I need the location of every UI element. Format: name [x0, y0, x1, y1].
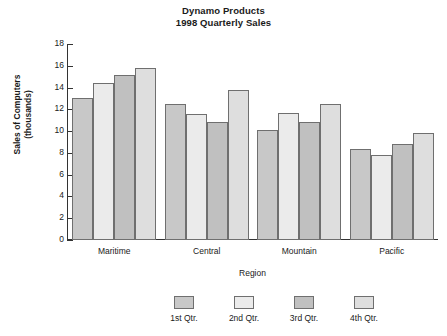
- y-axis-title-line2: (thousands): [22, 55, 33, 175]
- bar: [299, 122, 320, 240]
- bar: [350, 149, 371, 240]
- x-axis-title: Region: [67, 268, 438, 278]
- legend-swatch: [234, 296, 254, 309]
- legend-item: 3rd Qtr.: [275, 296, 333, 324]
- y-tick-label: 14: [42, 82, 64, 93]
- chart-title-line2: 1998 Quarterly Sales: [0, 17, 447, 29]
- legend-swatch: [294, 296, 314, 309]
- y-tick-mark: [67, 240, 73, 241]
- x-axis-category-label: Mountain: [247, 246, 351, 256]
- y-tick-label: 10: [42, 125, 64, 136]
- x-axis-category-label: Pacific: [340, 246, 444, 256]
- bar-group: [165, 44, 249, 240]
- y-tick: 0: [42, 240, 73, 241]
- bar: [207, 122, 228, 240]
- y-tick-label: 0: [42, 234, 64, 245]
- bar: [371, 155, 392, 240]
- bars-layer: [68, 44, 438, 240]
- legend-label: 2nd Qtr.: [215, 313, 273, 324]
- legend-label: 3rd Qtr.: [275, 313, 333, 324]
- x-axis-category-label: Central: [155, 246, 259, 256]
- y-tick-label: 8: [42, 147, 64, 158]
- y-tick-label: 18: [42, 38, 64, 49]
- y-tick-label: 4: [42, 190, 64, 201]
- bar: [228, 90, 249, 240]
- bar: [392, 144, 413, 240]
- y-tick-label: 12: [42, 103, 64, 114]
- chart-title: Dynamo Products 1998 Quarterly Sales: [0, 5, 447, 29]
- chart-title-line1: Dynamo Products: [182, 5, 265, 16]
- plot-area: 024681012141618: [67, 44, 438, 240]
- legend-item: 2nd Qtr.: [215, 296, 273, 324]
- bar: [93, 83, 114, 240]
- y-axis-title-line1: Sales of Computers: [12, 75, 22, 155]
- bar: [135, 68, 156, 240]
- legend-label: 1st Qtr.: [155, 313, 213, 324]
- bar-group: [257, 44, 341, 240]
- legend-swatch: [354, 296, 374, 309]
- legend-label: 4th Qtr.: [335, 313, 393, 324]
- x-axis-category-label: Maritime: [62, 246, 166, 256]
- chart-legend: 1st Qtr.2nd Qtr.3rd Qtr.4th Qtr.: [155, 296, 395, 330]
- bar: [72, 98, 93, 240]
- legend-item: 4th Qtr.: [335, 296, 393, 324]
- bar-group: [72, 44, 156, 240]
- legend-swatch: [174, 296, 194, 309]
- bar-group: [350, 44, 434, 240]
- bar: [186, 114, 207, 240]
- bar: [165, 104, 186, 240]
- y-tick-label: 6: [42, 169, 64, 180]
- bar: [257, 130, 278, 240]
- y-tick-label: 16: [42, 60, 64, 71]
- y-axis-title: Sales of Computers (thousands): [12, 55, 33, 175]
- bar-chart: Dynamo Products 1998 Quarterly Sales Sal…: [0, 0, 447, 336]
- legend-item: 1st Qtr.: [155, 296, 213, 324]
- bar: [278, 113, 299, 240]
- bar: [413, 133, 434, 240]
- bar: [320, 104, 341, 240]
- bar: [114, 75, 135, 241]
- y-tick-label: 2: [42, 212, 64, 223]
